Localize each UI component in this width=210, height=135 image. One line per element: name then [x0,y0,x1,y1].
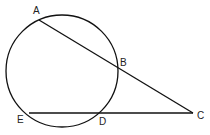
geometry-diagram: A B C E D [0,0,210,135]
label-a: A [33,5,40,16]
circle [6,15,118,127]
label-c: C [197,110,204,121]
label-e: E [17,114,24,125]
label-b: B [120,57,127,68]
secant-ac [39,20,193,113]
label-d: D [99,116,106,127]
